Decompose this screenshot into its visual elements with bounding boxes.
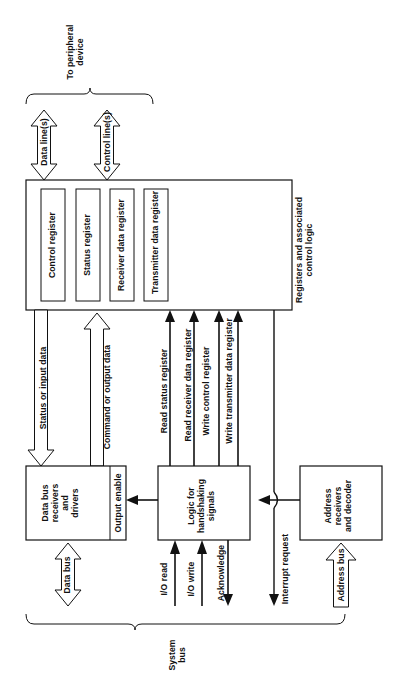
- control-signal-label-read-receiver: Read receiver data register: [183, 321, 195, 449]
- control-signal-label-read-status: Read status register: [159, 341, 171, 441]
- io-interface-block-diagram: To peripheral device Data line(s) Contro…: [0, 0, 405, 685]
- register-label-control: Control register: [47, 196, 59, 294]
- io-read-label: I/O read: [159, 549, 171, 609]
- register-label-transmitter: Transmitter data register: [150, 196, 162, 294]
- handshake-to-drivers-arrowhead: [126, 495, 138, 505]
- control-lines-label: Control line(s): [102, 106, 114, 178]
- register-label-receiver: Receiver data register: [116, 196, 128, 294]
- block-label-data-bus-receivers: Data bus receivers and drivers: [40, 472, 88, 534]
- interrupt-request-line: [274, 310, 278, 598]
- output-enable-label: Output enable: [113, 472, 125, 534]
- address-bus-label: Address bus: [336, 539, 348, 611]
- block-label-address-decoder: Address receivers and decoder: [323, 475, 359, 537]
- io-read-arrowhead: [170, 540, 180, 554]
- acknowledge-label: Acknowledge: [216, 533, 228, 613]
- decoder-to-handshake-arrowhead: [258, 495, 270, 505]
- command-or-output-data-label: Command or output data: [102, 339, 114, 455]
- interrupt-request-arrowhead: [269, 594, 279, 606]
- status-or-input-data-label: Status or input data: [38, 340, 50, 436]
- data-lines-label: Data line(s): [39, 107, 51, 177]
- block-label-handshaking-logic: Logic for handshaking signals: [186, 475, 222, 537]
- system-bus-brace-label: System bus: [167, 631, 191, 679]
- data-bus-label: Data bus: [62, 545, 74, 605]
- io-write-label: I/O write: [186, 549, 198, 609]
- interrupt-request-label: Interrupt request: [280, 521, 292, 617]
- register-block-label: Registers and associated control logic: [294, 188, 318, 312]
- peripheral-brace: [26, 88, 153, 104]
- system-bus-brace: [26, 614, 345, 630]
- control-signal-label-write-transmitter: Write transmitter data register: [224, 311, 236, 451]
- control-signal-label-write-control: Write control register: [201, 341, 213, 441]
- peripheral-brace-label: To peripheral device: [65, 16, 89, 88]
- register-label-status: Status register: [82, 196, 94, 294]
- io-write-arrowhead: [197, 540, 207, 554]
